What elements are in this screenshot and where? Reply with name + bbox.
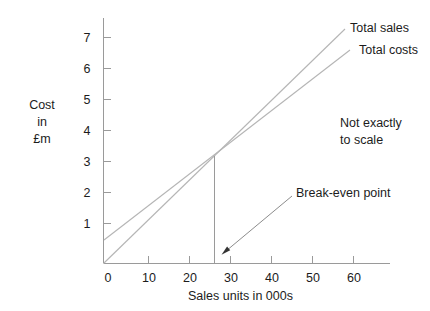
y-axis-title-line-3: £m: [6, 131, 78, 148]
y-tick-label-3: 3: [79, 154, 95, 171]
y-axis-title-line-1: Cost: [6, 97, 78, 114]
y-axis-title-line-2: in: [6, 114, 78, 131]
y-tick-label-6: 6: [79, 61, 95, 78]
y-axis-ticks: [104, 38, 112, 224]
x-tick-label-30: 30: [221, 270, 241, 287]
total-costs-line: [104, 50, 350, 240]
scale-note-line-2: to scale: [340, 132, 402, 149]
x-tick-label-50: 50: [303, 270, 323, 287]
scale-note: Not exactly to scale: [340, 115, 402, 149]
break-even-chart: 7 6 5 4 3 2 1 0 10 20 30 40 50 60 Cost i…: [0, 0, 430, 311]
x-tick-label-20: 20: [180, 270, 200, 287]
scale-note-line-1: Not exactly: [340, 115, 402, 132]
y-tick-label-2: 2: [79, 185, 95, 202]
x-tick-label-10: 10: [139, 270, 159, 287]
total-sales-label: Total sales: [350, 20, 409, 37]
x-tick-label-40: 40: [262, 270, 282, 287]
break-even-arrow: [222, 196, 293, 255]
y-axis-title: Cost in £m: [6, 97, 78, 148]
x-tick-label-0: 0: [99, 270, 117, 287]
y-tick-label-7: 7: [79, 30, 95, 47]
y-tick-label-4: 4: [79, 123, 95, 140]
y-tick-label-1: 1: [79, 216, 95, 233]
total-costs-label: Total costs: [359, 42, 418, 59]
break-even-point-label: Break-even point: [296, 185, 391, 202]
x-tick-label-60: 60: [344, 270, 364, 287]
y-tick-label-5: 5: [79, 92, 95, 109]
x-axis-title: Sales units in 000s: [188, 288, 293, 305]
x-axis-ticks: [149, 256, 354, 264]
total-sales-line: [104, 29, 345, 263]
